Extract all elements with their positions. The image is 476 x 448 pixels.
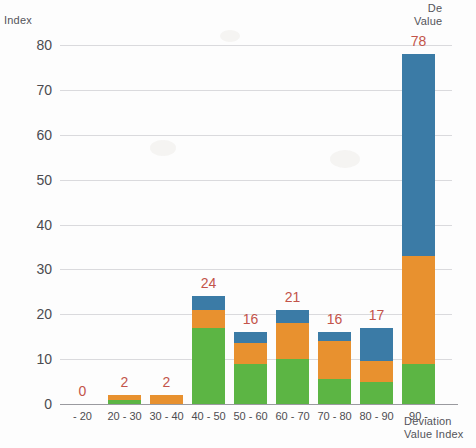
bar-stack[interactable] <box>192 296 225 404</box>
y-axis-title: Index <box>4 14 32 27</box>
bar-segment-orange[interactable] <box>276 323 309 359</box>
bar-group[interactable]: 21 <box>276 45 309 404</box>
bar-value-label: 21 <box>276 290 309 304</box>
x-tick-label: 40 - 50 <box>185 409 233 423</box>
bar-segment-green[interactable] <box>402 364 435 404</box>
bar-segment-orange[interactable] <box>192 310 225 328</box>
bar-group[interactable]: 0 <box>66 45 99 404</box>
bar-stack[interactable] <box>108 395 141 404</box>
bar-segment-green[interactable] <box>108 400 141 404</box>
bar-segment-orange[interactable] <box>360 361 393 381</box>
bar-value-label: 17 <box>360 308 393 322</box>
bar-segment-orange[interactable] <box>150 395 183 404</box>
bar-group[interactable]: 24 <box>192 45 225 404</box>
x-tick-label: 20 - 30 <box>101 409 149 423</box>
y-tick-label: 80 <box>6 38 52 52</box>
bar-stack[interactable] <box>234 332 267 404</box>
x-tick-label: 30 - 40 <box>143 409 191 423</box>
y-axis-tick-labels: 01020304050607080 <box>0 45 52 404</box>
y-tick-label: 60 <box>6 128 52 142</box>
bar-segment-green[interactable] <box>234 364 267 404</box>
bar-group[interactable]: 16 <box>318 45 351 404</box>
y-tick-label: 0 <box>6 397 52 411</box>
bar-segment-orange[interactable] <box>234 343 267 363</box>
paper-blemish <box>220 30 240 42</box>
bar-value-label: 2 <box>150 375 183 389</box>
bar-group[interactable]: 16 <box>234 45 267 404</box>
bar-value-label: 16 <box>318 312 351 326</box>
bar-stack[interactable] <box>318 332 351 404</box>
x-tick-label: 50 - 60 <box>227 409 275 423</box>
bar-group[interactable]: 78 <box>402 45 435 404</box>
bar-segment-blue[interactable] <box>276 310 309 323</box>
y-tick-label: 20 <box>6 307 52 321</box>
x-tick-label: 80 - 90 <box>353 409 401 423</box>
bar-segment-blue[interactable] <box>192 296 225 309</box>
y-tick-label: 30 <box>6 262 52 276</box>
bar-segment-orange[interactable] <box>318 341 351 379</box>
bar-value-label: 24 <box>192 276 225 290</box>
bar-group[interactable]: 17 <box>360 45 393 404</box>
y-tick-label: 70 <box>6 83 52 97</box>
bar-segment-green[interactable] <box>192 328 225 404</box>
bar-stack[interactable] <box>360 328 393 404</box>
corner-note: De Value <box>414 2 442 28</box>
x-tick-label: 70 - 80 <box>311 409 359 423</box>
bar-segment-green[interactable] <box>276 359 309 404</box>
bar-group[interactable]: 2 <box>108 45 141 404</box>
bar-segment-green[interactable] <box>318 379 351 404</box>
bar-segment-green[interactable] <box>360 382 393 404</box>
y-tick-label: 10 <box>6 352 52 366</box>
bar-value-label: 2 <box>108 375 141 389</box>
bars-layer: 022241621161778 <box>60 45 452 404</box>
x-axis-tick-labels: - 2020 - 3030 - 4040 - 5050 - 6060 - 707… <box>60 409 452 431</box>
bar-segment-blue[interactable] <box>234 332 267 343</box>
x-axis-title: Deviation Value Index <box>404 415 463 441</box>
bar-segment-blue[interactable] <box>402 54 435 256</box>
y-tick-label: 50 <box>6 173 52 187</box>
x-tick-label: - 20 <box>59 409 107 423</box>
bar-stack[interactable] <box>150 395 183 404</box>
bar-segment-blue[interactable] <box>360 328 393 362</box>
bar-stack[interactable] <box>276 310 309 404</box>
bar-segment-blue[interactable] <box>318 332 351 341</box>
bar-stack[interactable] <box>402 54 435 404</box>
bar-segment-orange[interactable] <box>402 256 435 364</box>
bar-value-label: 16 <box>234 312 267 326</box>
bar-chart: Index De Value 01020304050607080 0222416… <box>0 0 476 448</box>
bar-value-label: 0 <box>66 384 99 398</box>
bar-value-label: 78 <box>402 34 435 48</box>
bar-group[interactable]: 2 <box>150 45 183 404</box>
axis-line-zero <box>60 404 458 405</box>
y-tick-label: 40 <box>6 218 52 232</box>
x-tick-label: 60 - 70 <box>269 409 317 423</box>
